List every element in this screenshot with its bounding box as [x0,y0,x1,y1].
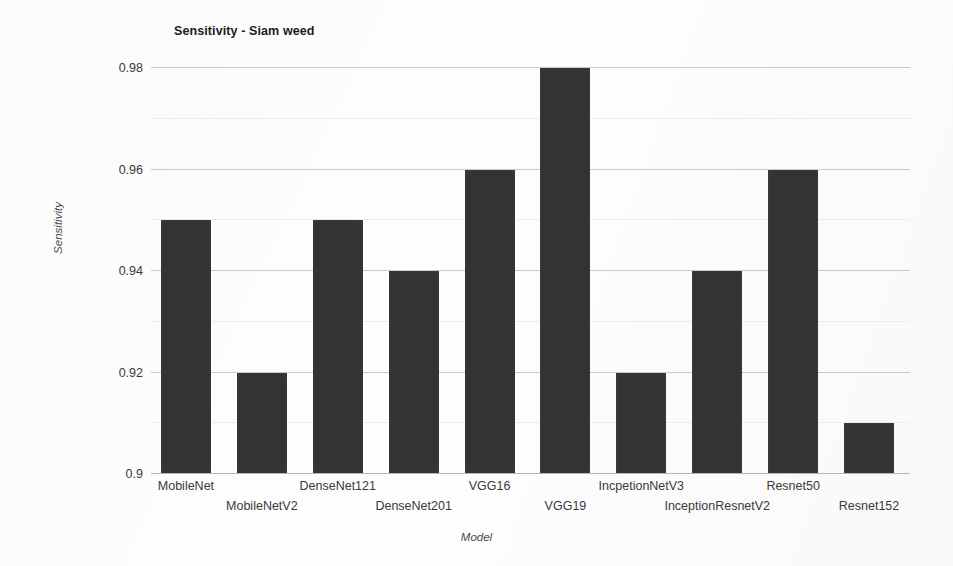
x-tick-label: InceptionResnetV2 [664,499,770,513]
y-tick-label: 0.96 [119,163,143,177]
y-tick-label: 0.98 [119,61,143,75]
y-tick-label: 0.94 [119,264,143,278]
x-tick-label: IncpetionNetV3 [599,479,684,493]
y-tick-label: 0.9 [126,467,143,481]
bar [389,271,439,474]
bar [844,423,894,474]
bar [616,373,666,475]
x-tick-label: Resnet152 [839,499,899,513]
bar [237,373,287,475]
chart-title: Sensitivity - Siam weed [174,24,315,38]
x-tick-label: Resnet50 [766,479,820,493]
gridline-minor [151,118,910,119]
y-tick-label: 0.92 [119,366,143,380]
x-tick-label: VGG16 [469,479,511,493]
chart-page: Sensitivity - Siam weed Sensitivity 0.90… [0,0,953,566]
bar [540,68,590,474]
bar [161,220,211,474]
x-tick-label: DenseNet121 [300,479,376,493]
bar [465,170,515,475]
x-axis-tick-labels: MobileNetMobileNetV2DenseNet121DenseNet2… [151,474,910,524]
x-tick-label: VGG19 [545,499,587,513]
x-tick-label: MobileNet [158,479,214,493]
plot-area [151,68,910,474]
gridline-major [151,67,910,68]
y-axis-title: Sensitivity [52,168,64,288]
x-tick-label: MobileNetV2 [226,499,298,513]
x-axis-title: Model [0,531,953,543]
bar [313,220,363,474]
x-tick-label: DenseNet201 [375,499,451,513]
y-axis-tick-labels: 0.90.920.940.960.98 [95,68,143,474]
bar [692,271,742,474]
bar [768,170,818,475]
